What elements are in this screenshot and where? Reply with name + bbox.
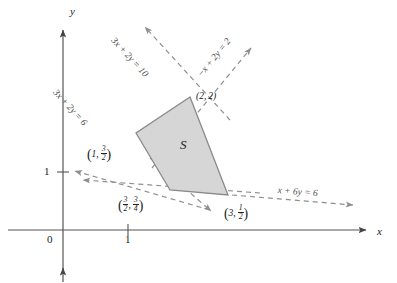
feasible-region-figure: y x 0 1 1 S 3x + 2y = 10 −x + 2y = 2 3x … [0, 0, 397, 283]
vertex-label-top: (2, 2) [196, 92, 216, 102]
y-axis-label: y [70, 6, 75, 17]
vertex-label-bottom: (32, 34) [118, 196, 143, 213]
vertex-label-right: (3, 12) [224, 204, 248, 221]
origin-label: 0 [47, 234, 53, 245]
x-tick-label-1: 1 [125, 234, 131, 245]
x-axis-label: x [377, 226, 382, 237]
region-label-s: S [180, 138, 187, 151]
vertex-label-left: (1, 32) [87, 145, 111, 162]
y-tick-label-1: 1 [44, 166, 50, 177]
plot-canvas [0, 0, 397, 283]
